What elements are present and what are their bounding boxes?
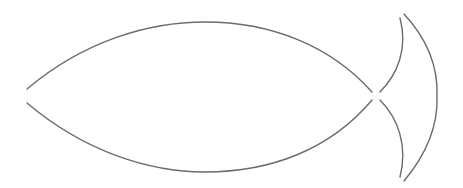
ichthys-fish-icon — [0, 0, 463, 188]
tail-inner-lower-curve — [380, 100, 403, 177]
fish-drawing-canvas — [0, 0, 463, 188]
body-upper-curve — [27, 22, 372, 92]
tail-inner-upper-curve — [380, 18, 403, 92]
tail-outer-arc — [404, 14, 437, 181]
body-lower-curve — [27, 100, 372, 172]
